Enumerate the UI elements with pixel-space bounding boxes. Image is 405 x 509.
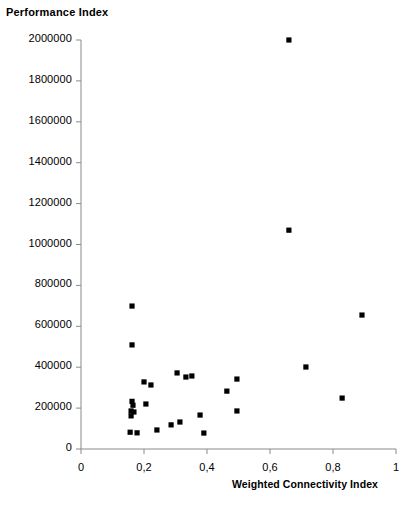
data-point	[197, 412, 202, 417]
y-tick-label: 600000	[4, 318, 72, 330]
x-tick-label: 0,2	[124, 461, 164, 473]
data-point	[129, 342, 134, 347]
x-axis-title: Weighted Connectivity Index	[232, 478, 378, 490]
data-point	[234, 408, 239, 413]
x-tick-label: 0,6	[250, 461, 290, 473]
x-tick-label: 0,8	[313, 461, 353, 473]
data-point	[128, 430, 133, 435]
x-tick-label: 0	[61, 461, 101, 473]
data-point	[143, 401, 148, 406]
y-tick-label: 200000	[4, 400, 72, 412]
data-point	[154, 427, 159, 432]
data-point	[129, 303, 134, 308]
data-point	[224, 389, 229, 394]
data-point	[177, 419, 182, 424]
data-point	[340, 395, 345, 400]
data-point	[201, 430, 206, 435]
data-points-group	[128, 37, 365, 435]
axes-group	[81, 40, 396, 449]
data-point	[128, 413, 133, 418]
data-point	[189, 373, 194, 378]
y-tick-label: 1600000	[4, 114, 72, 126]
data-point	[183, 374, 188, 379]
x-tick-marks	[81, 449, 396, 454]
scatter-chart: Performance Index 0200000400000600000800…	[0, 0, 405, 509]
data-point	[134, 430, 139, 435]
y-tick-label: 2000000	[4, 32, 72, 44]
y-tick-label: 0	[4, 441, 72, 453]
data-point	[130, 403, 135, 408]
data-point	[286, 228, 291, 233]
y-tick-label: 400000	[4, 359, 72, 371]
x-tick-label: 1	[376, 461, 405, 473]
x-tick-label: 0,4	[187, 461, 227, 473]
y-tick-label: 1200000	[4, 196, 72, 208]
data-point	[359, 312, 364, 317]
data-point	[286, 37, 291, 42]
data-point	[148, 382, 153, 387]
y-tick-label: 1000000	[4, 237, 72, 249]
data-point	[168, 422, 173, 427]
y-tick-label: 1800000	[4, 73, 72, 85]
data-point	[141, 379, 146, 384]
y-tick-label: 800000	[4, 277, 72, 289]
data-point	[174, 370, 179, 375]
y-tick-marks	[76, 40, 81, 449]
y-tick-label: 1400000	[4, 155, 72, 167]
data-point	[303, 364, 308, 369]
data-point	[234, 376, 239, 381]
